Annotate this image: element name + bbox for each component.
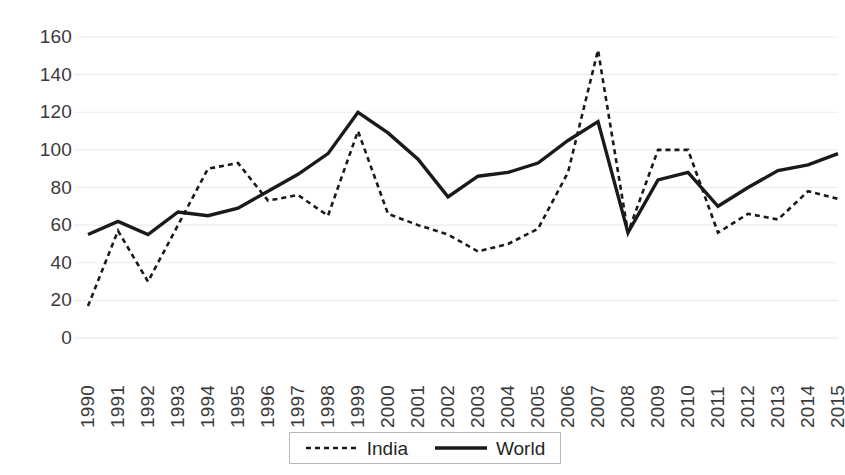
x-axis-tick-label: 2009 [646,344,670,428]
x-axis-tick-label: 1999 [346,344,370,428]
x-axis-tick-label: 2004 [496,344,520,428]
legend-entry-world: World [434,439,545,458]
chart-legend: IndiaWorld [289,432,561,464]
x-axis-tick-label: 2002 [436,344,460,428]
x-axis-tick-label: 1991 [106,344,130,428]
legend-swatch-dashed [305,442,359,454]
x-axis-tick-label: 2003 [466,344,490,428]
y-axis-tick-label: 140 [14,65,72,84]
x-axis-tick-label: 2015 [826,344,845,428]
y-axis-tick-label: 80 [14,178,72,197]
x-axis-tick-label: 2013 [766,344,790,428]
series-line-world [88,112,838,234]
x-axis-tick-label: 1994 [196,344,220,428]
legend-swatch-solid [434,442,488,454]
legend-entry-india: India [305,439,408,458]
legend-label: World [496,439,545,458]
x-axis-tick-label: 2005 [526,344,550,428]
y-axis-tick-label: 20 [14,290,72,309]
x-axis-tick-label: 1990 [76,344,100,428]
x-axis-tick-label: 1996 [256,344,280,428]
x-axis-tick-label: 2007 [586,344,610,428]
x-axis-tick-label: 1993 [166,344,190,428]
x-axis-tick-label: 1995 [226,344,250,428]
y-axis-tick-labels: 160140120100806040200 [0,0,72,360]
x-axis-tick-label: 2001 [406,344,430,428]
y-axis-tick-label: 100 [14,140,72,159]
series-line-india [88,50,838,306]
x-axis-tick-label: 2008 [616,344,640,428]
x-axis-tick-label: 1998 [316,344,340,428]
y-axis-tick-label: 60 [14,215,72,234]
x-axis-tick-label: 1992 [136,344,160,428]
y-axis-tick-label: 40 [14,253,72,272]
y-axis-tick-label: 120 [14,102,72,121]
x-axis-tick-label: 2000 [376,344,400,428]
x-axis-tick-labels: 1990199119921993199419951996199719981999… [0,344,845,430]
x-axis-tick-label: 2011 [706,344,730,428]
gridlines [74,37,838,338]
x-axis-tick-label: 2012 [736,344,760,428]
x-axis-tick-label: 2014 [796,344,820,428]
y-axis-tick-label: 160 [14,27,72,46]
x-axis-tick-label: 2006 [556,344,580,428]
legend-label: India [367,439,408,458]
series-lines [88,50,838,306]
x-axis-tick-label: 2010 [676,344,700,428]
line-chart: 160140120100806040200 199019911992199319… [0,0,845,475]
x-axis-tick-label: 1997 [286,344,310,428]
